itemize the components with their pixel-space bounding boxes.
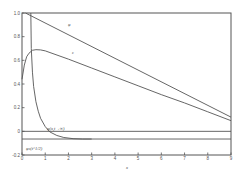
x-tick-label: 8 xyxy=(207,156,210,161)
y-tick-label: 0.2 xyxy=(14,105,21,110)
curve-label-steady: φs(t^1/2) xyxy=(26,146,43,151)
y-tick-label: 0 xyxy=(17,129,20,134)
x-axis-label: x xyxy=(125,165,128,170)
x-tick-label: 1 xyxy=(44,156,47,161)
y-tick-label: 0.8 xyxy=(14,34,21,39)
y-tick-label: 0.4 xyxy=(14,82,21,87)
curve-label-phi: φ xyxy=(68,22,71,27)
x-tick-label: 7 xyxy=(183,156,186,161)
series-line xyxy=(25,13,231,117)
x-tick-label: 4 xyxy=(114,156,117,161)
chart-series xyxy=(22,13,231,139)
x-tick-label: 0 xyxy=(21,156,24,161)
y-tick-label: 1.0 xyxy=(14,11,21,16)
series-line xyxy=(22,50,231,121)
x-tick-label: 5 xyxy=(137,156,140,161)
y-tick-label: 0.6 xyxy=(14,58,21,63)
x-tick-label: 2 xyxy=(67,156,70,161)
line-chart: 0123456789-0.200.20.40.60.81.0 x φ ε φ(x… xyxy=(0,0,245,173)
y-tick-label: -0.2 xyxy=(12,153,20,158)
axis-ticks: 0123456789-0.200.20.40.60.81.0 xyxy=(12,11,233,161)
x-tick-label: 9 xyxy=(230,156,233,161)
x-tick-label: 3 xyxy=(90,156,93,161)
x-tick-label: 6 xyxy=(160,156,163,161)
series-line xyxy=(31,13,92,139)
curve-label-epsilon: ε xyxy=(72,50,74,55)
